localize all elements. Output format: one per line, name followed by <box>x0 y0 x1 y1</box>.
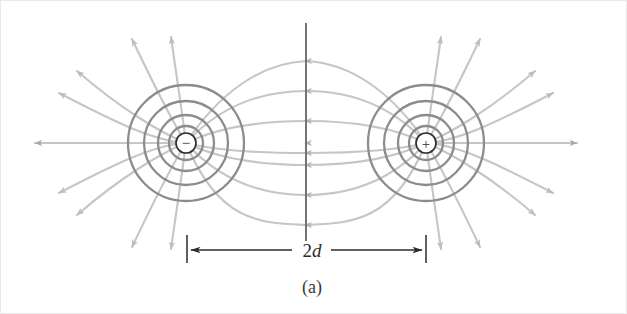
electric-field-line <box>186 121 306 143</box>
electric-field-line <box>59 93 186 143</box>
electric-field-line <box>77 71 186 143</box>
figure-caption: (a) <box>302 277 322 298</box>
dimension-prefix: 2 <box>303 240 313 261</box>
dipole-field-diagram: − + 2d (a) <box>1 1 627 314</box>
electric-field-line <box>306 121 426 143</box>
electric-field-line <box>77 143 186 215</box>
electric-field-line <box>426 143 553 193</box>
positive-charge-sign: + <box>422 136 430 152</box>
negative-charge-marker: − <box>176 133 196 153</box>
electric-field-line <box>426 71 535 143</box>
dipole-figure: − + 2d (a) <box>0 0 627 314</box>
dimension-symbol: d <box>312 240 322 261</box>
negative-charge-sign: − <box>182 135 190 151</box>
positive-charge-marker: + <box>416 133 436 153</box>
separation-dimension-label: 2d <box>303 240 323 261</box>
electric-field-line <box>426 93 553 143</box>
electric-field-line <box>59 143 186 193</box>
electric-field-line <box>426 143 535 215</box>
